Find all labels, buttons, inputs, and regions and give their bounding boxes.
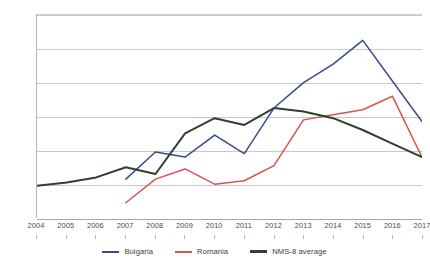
legend-swatch-icon — [102, 251, 119, 253]
x-axis-tick — [333, 235, 334, 239]
legend-label: Bulgaria — [124, 247, 153, 256]
series-line-nms-8-average — [37, 108, 422, 186]
x-axis-tick — [274, 235, 275, 239]
x-axis-tick — [392, 235, 393, 239]
series-line-romania — [126, 96, 422, 203]
x-axis-tick — [184, 235, 185, 239]
x-axis-tick — [95, 235, 96, 239]
legend-label: NMS-8 average — [272, 247, 326, 256]
legend-swatch-icon — [175, 251, 192, 253]
legend-swatch-icon — [250, 250, 267, 253]
x-axis-tick-label: 2009 — [176, 221, 193, 230]
x-axis-tick — [244, 235, 245, 239]
x-axis-tick-label: 2005 — [57, 221, 74, 230]
x-axis-tick-label: 2016 — [384, 221, 401, 230]
x-axis-tick — [155, 235, 156, 239]
legend-item-romania[interactable]: Romania — [175, 247, 228, 256]
x-axis-tick-label: 2004 — [28, 221, 45, 230]
series-group — [37, 15, 422, 218]
legend-label: Romania — [197, 247, 228, 256]
series-line-bulgaria — [126, 40, 422, 179]
x-axis-tick — [214, 235, 215, 239]
x-axis-tick — [303, 235, 304, 239]
x-axis-tick — [66, 235, 67, 239]
x-axis-tick-label: 2010 — [206, 221, 223, 230]
x-axis-tick — [125, 235, 126, 239]
x-axis-tick — [422, 235, 423, 239]
x-axis-tick-label: 2011 — [236, 221, 252, 230]
chart-legend: BulgariaRomaniaNMS-8 average — [0, 247, 429, 256]
x-axis-tick-label: 2014 — [325, 221, 342, 230]
x-axis-tick — [363, 235, 364, 239]
x-axis-tick-label: 2007 — [117, 221, 134, 230]
gridline — [37, 219, 422, 220]
x-axis-tick-label: 2012 — [265, 221, 282, 230]
legend-item-bulgaria[interactable]: Bulgaria — [102, 247, 153, 256]
x-axis-label-group: 2004200520062007200820092010201120122013… — [36, 221, 422, 235]
plot-area — [36, 14, 422, 218]
x-axis-tick — [36, 235, 37, 239]
x-axis-tick-label: 2017 — [414, 221, 430, 230]
legend-item-nms-8-average[interactable]: NMS-8 average — [250, 247, 326, 256]
x-axis-tick-label: 2013 — [295, 221, 312, 230]
x-axis-tick-label: 2006 — [87, 221, 104, 230]
x-axis-tick-label: 2008 — [146, 221, 163, 230]
x-axis-tick-label: 2015 — [354, 221, 371, 230]
